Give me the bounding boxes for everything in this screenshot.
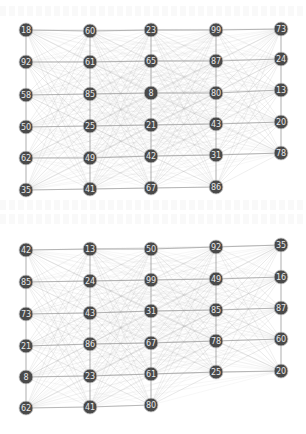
graph-node: 35 [19,183,33,197]
graph-node: 35 [274,238,288,252]
node-label: 43 [211,120,221,129]
graph-node: 13 [274,83,288,97]
graph-node: 61 [83,55,97,69]
graph-node: 8 [19,370,33,384]
node-label: 86 [211,183,221,192]
node-label: 67 [146,339,156,348]
graph-node: 99 [209,23,223,37]
node-label: 50 [21,123,31,132]
graph-node: 42 [19,243,33,257]
node-label: 31 [211,151,221,160]
graph-edge [26,407,90,408]
graph-edge [216,245,281,279]
graph-node: 18 [19,23,33,37]
graph-node: 92 [209,240,223,254]
graph-node: 62 [19,151,33,165]
graph-node: 25 [209,365,223,379]
node-label: 23 [85,372,95,381]
graph-edge [90,188,151,189]
node-label: 73 [21,310,31,319]
graph-node: 80 [144,398,158,412]
node-label: 80 [146,401,156,410]
graph-edge [90,247,216,344]
graph-node: 62 [19,401,33,415]
node-label: 50 [146,245,156,254]
graph-node: 24 [83,274,97,288]
graph-node: 13 [83,242,97,256]
node-label: 35 [276,241,286,250]
graph-node: 65 [144,54,158,68]
graph-edge [151,310,216,311]
node-label: 73 [276,25,286,34]
node-label: 99 [211,26,221,35]
node-label: 42 [21,246,31,255]
node-label: 49 [85,154,95,163]
node-label: 24 [85,277,95,286]
node-label: 35 [21,186,31,195]
node-label: 8 [148,89,153,98]
node-label: 85 [85,90,95,99]
node-label: 41 [85,185,95,194]
graph-node: 21 [144,118,158,132]
graph-edge [216,30,281,59]
graph-edge [26,313,90,314]
graph-edge [90,153,281,189]
graph-node: 24 [274,52,288,66]
node-label: 8 [23,373,28,382]
graph-node: 67 [144,181,158,195]
graph-edge [216,371,281,372]
node-label: 60 [276,335,286,344]
graph-edge [26,249,90,250]
node-label: 43 [85,309,95,318]
graph-node: 41 [83,182,97,196]
node-label: 41 [85,403,95,412]
graph-node: 87 [274,301,288,315]
node-label: 92 [21,58,31,67]
graph-node: 61 [144,367,158,381]
scan-bleed-through [0,200,306,210]
graph-node: 41 [83,400,97,414]
graph-node: 60 [83,24,97,38]
graph-node: 50 [144,242,158,256]
graph-node: 86 [83,337,97,351]
node-label: 85 [21,278,31,287]
graph-node: 86 [209,180,223,194]
node-label: 13 [85,245,95,254]
node-label: 85 [211,306,221,315]
node-label: 21 [146,121,156,130]
graph-edge [216,153,281,187]
graph-node: 67 [144,336,158,350]
graph-node: 85 [19,275,33,289]
graph-node: 16 [274,270,288,284]
graph-node: 20 [274,364,288,378]
node-label: 92 [211,243,221,252]
graph-edge [26,281,90,282]
graph-node: 8 [144,86,158,100]
graph-edge [26,376,90,377]
node-label: 61 [146,370,156,379]
node-label: 25 [85,122,95,131]
graph-node: 31 [144,304,158,318]
graph-node: 50 [19,120,33,134]
graph-node: 31 [209,148,223,162]
graph-node: 23 [144,23,158,37]
node-label: 16 [276,273,286,282]
graph-node: 43 [209,117,223,131]
graph-node: 49 [209,272,223,286]
node-label: 49 [211,275,221,284]
graph-node: 20 [274,115,288,129]
node-label: 65 [146,57,156,66]
node-label: 62 [21,154,31,163]
graph-node: 73 [274,22,288,36]
graph-edge [26,61,151,158]
graph-edge [26,311,151,408]
graph-node: 58 [19,88,33,102]
graph-node: 80 [209,86,223,100]
graph-edge [151,187,216,188]
graph-node: 43 [83,306,97,320]
node-label: 86 [85,340,95,349]
node-label: 67 [146,184,156,193]
graph-node: 85 [83,87,97,101]
graph-node: 25 [83,119,97,133]
node-label: 99 [146,276,156,285]
